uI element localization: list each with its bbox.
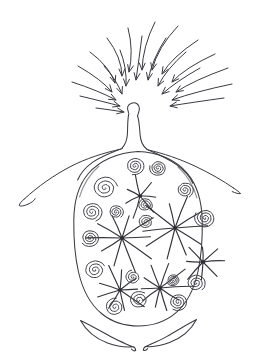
starburst-ray bbox=[203, 262, 217, 276]
starburst-core bbox=[138, 194, 142, 197]
starburst-ray bbox=[187, 261, 203, 262]
converging-arrow-field bbox=[72, 22, 232, 114]
starburst-ray bbox=[160, 286, 193, 288]
starburst-ray bbox=[202, 247, 203, 262]
spiral-1 bbox=[94, 177, 117, 197]
starburst-ray bbox=[141, 288, 160, 289]
arrow-15 bbox=[162, 68, 200, 94]
starburst-core bbox=[120, 236, 124, 239]
arrow-shaft bbox=[96, 108, 124, 112]
starburst-ray bbox=[175, 212, 201, 228]
spiral-3 bbox=[150, 162, 166, 176]
starburst-core bbox=[118, 288, 122, 291]
arrow-shaft bbox=[136, 36, 142, 80]
starburst-ray bbox=[160, 288, 167, 311]
spiral-14 bbox=[167, 275, 179, 286]
arrow-2 bbox=[128, 28, 134, 72]
starburst-ray bbox=[98, 224, 122, 238]
starburst-ray bbox=[120, 270, 122, 290]
spiral-8 bbox=[195, 210, 214, 227]
starburst-ray bbox=[122, 216, 129, 238]
arrow-shaft bbox=[172, 54, 215, 82]
arrow-head bbox=[158, 79, 164, 87]
arrow-6 bbox=[134, 36, 142, 80]
spiral-7 bbox=[178, 183, 193, 197]
arrow-20 bbox=[96, 108, 124, 114]
starburst-ray bbox=[175, 228, 186, 255]
spiral-10 bbox=[82, 231, 98, 247]
starburst-ray bbox=[126, 196, 140, 203]
starburst-ray bbox=[151, 265, 160, 288]
starburst-core bbox=[158, 286, 162, 289]
spiral-4 bbox=[84, 204, 102, 221]
sketch-drawing bbox=[0, 0, 260, 362]
arrow-8 bbox=[90, 52, 116, 83]
arrow-head bbox=[176, 86, 183, 92]
starburst-field bbox=[86, 175, 225, 311]
starburst-core bbox=[173, 226, 177, 229]
starburst-ray bbox=[135, 175, 140, 197]
arrow-19 bbox=[170, 98, 224, 108]
bottom-crescent-blades bbox=[81, 320, 197, 351]
sketch-canvas bbox=[0, 0, 260, 362]
starburst-ray bbox=[203, 249, 218, 262]
arrow-9 bbox=[172, 54, 215, 82]
starburst-ray bbox=[120, 289, 138, 290]
spiral-17 bbox=[171, 295, 187, 311]
arrow-shaft bbox=[172, 84, 232, 100]
arrow-shaft bbox=[162, 68, 200, 94]
arrow-head bbox=[162, 67, 168, 74]
starburst-6 bbox=[126, 175, 156, 219]
starburst-ray bbox=[140, 183, 151, 197]
arrow-shaft bbox=[170, 98, 224, 106]
spiral-2 bbox=[128, 158, 144, 174]
starburst-ray bbox=[203, 261, 225, 262]
starburst-5 bbox=[187, 247, 225, 280]
starburst-ray bbox=[140, 196, 156, 197]
starburst-ray bbox=[122, 237, 151, 238]
neck-stem bbox=[122, 103, 147, 149]
spiral-11 bbox=[86, 261, 105, 278]
arrow-shaft bbox=[128, 28, 131, 72]
starburst-core bbox=[201, 260, 205, 263]
spiral-9 bbox=[139, 215, 152, 227]
